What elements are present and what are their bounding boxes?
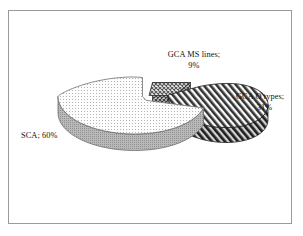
slice-label-gca-ms-lines: GCA MS lines; 9% xyxy=(160,50,228,71)
slice-label-sca-name: SCA; 60% xyxy=(21,131,81,142)
figure-canvas: GCA MS lines; 9% GCA O types; 31% SCA; 6… xyxy=(0,0,303,236)
pie-chart: GCA MS lines; 9% GCA O types; 31% SCA; 6… xyxy=(0,0,303,236)
slice-label-gca-o-types-value: 31% xyxy=(236,103,293,114)
slice-label-sca: SCA; 60% xyxy=(21,131,81,142)
slice-label-gca-o-types-name: GCA O types; xyxy=(236,92,303,103)
slice-label-gca-ms-lines-name: GCA MS lines; xyxy=(160,50,228,61)
pie-chart-svg xyxy=(0,0,303,236)
slice-label-gca-ms-lines-value: 9% xyxy=(160,61,228,72)
slice-label-gca-o-types: GCA O types; 31% xyxy=(236,92,303,113)
